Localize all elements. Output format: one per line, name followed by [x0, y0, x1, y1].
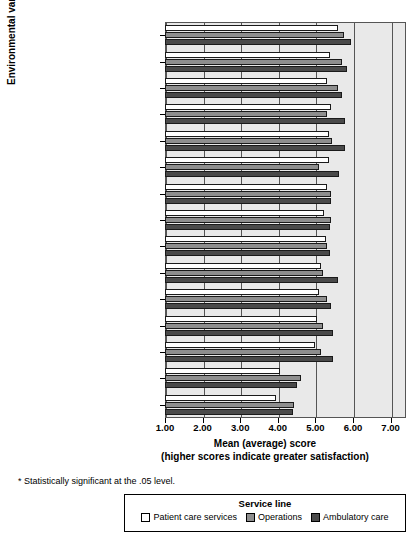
legend-swatch-2: [311, 513, 320, 522]
y-axis-tick: [160, 220, 165, 221]
bar-0: [165, 25, 338, 31]
legend: Service line Patient care servicesOperat…: [124, 494, 406, 532]
y-axis-tick: [160, 194, 165, 195]
bar-group: [165, 128, 406, 154]
y-axis-tick: [160, 352, 165, 353]
significance-footnote: * Statistically significant at the .05 l…: [18, 476, 175, 486]
bar-0: [165, 263, 321, 269]
bar-1: [165, 59, 342, 65]
x-axis-tick-label: 7.00: [381, 422, 400, 433]
bar-1: [165, 402, 294, 408]
bar-group: [165, 312, 406, 338]
y-axis-tick: [160, 35, 165, 36]
y-axis-tick: [160, 114, 165, 115]
bar-1: [165, 296, 327, 302]
bar-2: [165, 277, 338, 283]
legend-label: Ambulatory care: [323, 512, 389, 522]
x-axis-tick-label: 4.00: [269, 422, 288, 433]
y-axis-tick: [160, 273, 165, 274]
bar-1: [165, 111, 327, 117]
bar-1: [165, 270, 323, 276]
y-axis-tick: [160, 62, 165, 63]
bar-group: [165, 154, 406, 180]
bar-1: [165, 138, 332, 144]
bar-group: [165, 101, 406, 127]
bar-0: [165, 52, 330, 58]
bar-2: [165, 198, 331, 204]
legend-item[interactable]: Operations: [246, 512, 302, 522]
bar-chart-figure: Environmental variable Job satisfaction …: [0, 0, 420, 540]
bar-1: [165, 375, 301, 381]
bar-2: [165, 39, 351, 45]
bar-1: [165, 85, 338, 91]
bar-2: [165, 171, 339, 177]
bar-0: [165, 157, 329, 163]
legend-item[interactable]: Ambulatory care: [311, 512, 389, 522]
bar-2: [165, 356, 333, 362]
x-axis-tick-label: 3.00: [231, 422, 250, 433]
x-axis-title-line2: (higher scores indicate greater satisfac…: [110, 450, 420, 463]
bar-0: [165, 104, 331, 110]
bar-1: [165, 32, 344, 38]
y-axis-title: Environmental variable: [6, 0, 17, 120]
legend-item[interactable]: Patient care services: [141, 512, 237, 522]
bar-0: [165, 184, 327, 190]
x-axis-tick-label: 6.00: [344, 422, 363, 433]
y-axis-tick: [160, 378, 165, 379]
y-axis-tick: [160, 88, 165, 89]
bar-group: [165, 22, 406, 48]
bar-0: [165, 78, 327, 84]
bar-0: [165, 316, 317, 322]
bar-group: [165, 48, 406, 74]
y-axis-tick: [160, 299, 165, 300]
bar-rows-container: [165, 22, 406, 418]
bar-group: [165, 392, 406, 418]
bar-2: [165, 382, 297, 388]
bar-1: [165, 323, 323, 329]
bar-0: [165, 210, 324, 216]
bar-1: [165, 164, 319, 170]
bar-0: [165, 131, 329, 137]
bar-0: [165, 395, 276, 401]
bar-2: [165, 145, 345, 151]
x-axis-title-line1: Mean (average) score: [110, 437, 420, 450]
bar-group: [165, 233, 406, 259]
bar-1: [165, 217, 331, 223]
y-axis-tick: [160, 246, 165, 247]
legend-swatch-0: [141, 513, 150, 522]
x-axis-tick-label: 2.00: [193, 422, 212, 433]
bar-2: [165, 92, 342, 98]
y-axis-tick: [160, 167, 165, 168]
y-axis-tick: [160, 326, 165, 327]
legend-label: Patient care services: [153, 512, 237, 522]
bar-0: [165, 289, 319, 295]
bar-2: [165, 330, 333, 336]
bar-group: [165, 260, 406, 286]
bar-2: [165, 224, 330, 230]
legend-label: Operations: [258, 512, 302, 522]
y-axis-tick: [160, 405, 165, 406]
x-axis-title: Mean (average) score (higher scores indi…: [110, 437, 420, 463]
bar-group: [165, 207, 406, 233]
bar-2: [165, 66, 347, 72]
bar-2: [165, 303, 331, 309]
bar-0: [165, 236, 326, 242]
bar-group: [165, 286, 406, 312]
bar-2: [165, 250, 330, 256]
bar-1: [165, 349, 321, 355]
y-axis-tick: [160, 141, 165, 142]
x-axis-tick-label: 5.00: [306, 422, 325, 433]
bar-1: [165, 191, 331, 197]
bar-group: [165, 75, 406, 101]
bar-2: [165, 118, 345, 124]
bar-0: [165, 342, 315, 348]
x-axis-tick-label: 1.00: [156, 422, 175, 433]
legend-swatch-1: [246, 513, 255, 522]
bar-0: [165, 368, 280, 374]
legend-title: Service line: [125, 498, 405, 509]
bar-2: [165, 409, 293, 415]
bar-group: [165, 365, 406, 391]
legend-items: Patient care servicesOperationsAmbulator…: [125, 512, 405, 522]
bar-group: [165, 180, 406, 206]
bar-group: [165, 339, 406, 365]
